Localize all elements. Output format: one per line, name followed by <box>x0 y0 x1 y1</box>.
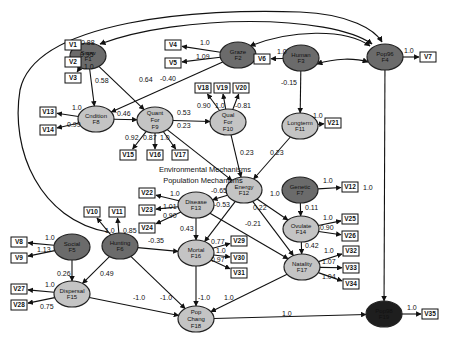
coef-label: 0.90 <box>320 224 334 231</box>
indicator-V18: V18 <box>195 83 211 93</box>
factor-label: Genetic <box>290 184 311 190</box>
svg-text:V25: V25 <box>344 215 356 222</box>
factor-label: Dispersal <box>59 288 84 294</box>
coef-label: 1.0 <box>224 294 234 301</box>
path-F15-V27 <box>28 290 54 292</box>
svg-text:V21: V21 <box>327 119 339 126</box>
coef-label: 1.0 <box>105 227 115 234</box>
factor-F2: GrazeF2 <box>220 42 256 68</box>
svg-text:V29: V29 <box>233 237 245 244</box>
factor-F8: CnditionF8 <box>78 106 114 132</box>
coef-label: 1.0 <box>84 63 94 70</box>
indicator-V16: V16 <box>147 150 163 160</box>
coef-label: 0.92 <box>125 134 139 141</box>
indicator-V8: V8 <box>11 237 27 247</box>
factor-label: F11 <box>295 126 306 132</box>
factor-label: Quant <box>147 110 164 116</box>
svg-text:V28: V28 <box>13 301 25 308</box>
factor-F16: MortalF16 <box>178 240 214 266</box>
indicator-V17: V17 <box>172 150 188 160</box>
factor-label: F10 <box>223 126 234 132</box>
coef-label: -1.0 <box>133 294 145 301</box>
path-F8-V13 <box>57 113 78 116</box>
indicator-V25: V25 <box>342 214 358 224</box>
svg-text:V17: V17 <box>174 151 186 158</box>
factor-label: Graze <box>230 49 247 55</box>
svg-text:V6: V6 <box>258 55 266 62</box>
coef-label: 0.42 <box>305 242 319 249</box>
indicator-V12: V12 <box>342 182 358 192</box>
factor-label: F16 <box>191 253 202 259</box>
coef-label: -0.65 <box>211 187 227 194</box>
coef-label: -1.0 <box>198 294 210 301</box>
svg-text:V5: V5 <box>169 59 177 66</box>
path-F7-V12 <box>318 188 341 189</box>
path-diagram: SnowF1GrazeF2HumanF3Pop96F4CnditionF8Qua… <box>0 0 451 343</box>
factor-F10: QualForF10 <box>210 109 246 135</box>
path-F3-F11 <box>300 71 301 113</box>
coef-label: 1.0 <box>323 214 333 221</box>
path-F17-F18 <box>211 274 287 311</box>
indicator-V9: V9 <box>11 253 27 263</box>
factor-F7: GeneticF7 <box>282 177 318 203</box>
svg-text:V8: V8 <box>15 238 23 245</box>
svg-text:V20: V20 <box>235 84 247 91</box>
caption-environmental: Environmental Mechanisms <box>159 165 251 174</box>
factor-F6: HuntingF6 <box>102 233 138 259</box>
indicator-V33: V33 <box>343 263 359 273</box>
factor-label: Pop <box>191 309 202 315</box>
indicator-V20: V20 <box>233 83 249 93</box>
factor-label: F8 <box>92 119 100 125</box>
path-F11-F12 <box>254 137 291 179</box>
coef-label: 0.99 <box>67 121 81 128</box>
factor-label: F15 <box>67 294 78 300</box>
svg-text:V4: V4 <box>169 41 177 48</box>
factor-F9: QuantForF9 <box>137 107 173 133</box>
factor-F5: SocialF5 <box>54 234 90 260</box>
coef-label: 1.0 <box>200 39 210 46</box>
coef-label: 0.64 <box>139 76 153 83</box>
coef-label: -1.0 <box>160 294 172 301</box>
coef-label: 0.95 <box>80 51 94 58</box>
factor-label: Pop98 <box>375 308 393 314</box>
factor-F3: HumanF3 <box>283 45 319 71</box>
factor-label: F12 <box>239 190 250 196</box>
coef-label: 0.77 <box>211 238 225 245</box>
coef-label: 1.0 <box>323 177 333 184</box>
indicator-V3: V3 <box>65 73 81 83</box>
coef-label: 1.0 <box>277 48 287 55</box>
coef-label: 0.26 <box>57 270 71 277</box>
factor-F4: Pop96F4 <box>367 44 403 70</box>
indicator-V29: V29 <box>231 236 247 246</box>
coef-label: 1.07 <box>322 258 336 265</box>
svg-text:V22: V22 <box>141 189 153 196</box>
svg-text:V11: V11 <box>111 208 123 215</box>
factor-F13: DiseaseF13 <box>178 192 214 218</box>
factor-label: Cndition <box>85 113 107 119</box>
factor-F19: Pop98F19 <box>366 301 402 327</box>
factor-label: For <box>151 117 160 123</box>
path-F12-F13 <box>213 195 228 200</box>
svg-text:V23: V23 <box>141 206 153 213</box>
coef-label: -0.81 <box>235 102 251 109</box>
path-F6-V11 <box>118 218 119 233</box>
coef-label: -0.53 <box>214 201 230 208</box>
factor-label: For <box>224 119 233 125</box>
f3-f4-curve <box>317 59 368 64</box>
svg-text:V32: V32 <box>345 247 357 254</box>
coef-label: 0.46 <box>117 110 131 117</box>
svg-text:V7: V7 <box>424 53 432 60</box>
coef-label: 0.23 <box>240 149 254 156</box>
factor-label: Natality <box>292 261 312 267</box>
indicator-V14: V14 <box>40 125 56 135</box>
path-F1-F9 <box>99 66 144 109</box>
coef-label: -0.40 <box>160 75 176 82</box>
factor-label: F18 <box>191 323 202 329</box>
indicator-V7: V7 <box>420 52 436 62</box>
factor-label: F13 <box>191 205 202 211</box>
factor-label: F6 <box>116 246 124 252</box>
svg-text:V13: V13 <box>42 108 54 115</box>
coef-label: 1.01 <box>163 203 177 210</box>
indicator-V30: V30 <box>231 253 247 263</box>
factor-label: F5 <box>68 247 76 253</box>
